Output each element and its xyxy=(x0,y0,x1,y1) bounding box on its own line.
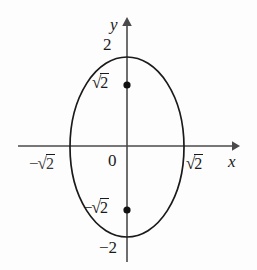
x-vertex-right-radicand: 2 xyxy=(194,154,203,172)
ellipse-figure: y x 2 −2 0 √2 − √2 √2 − √2 xyxy=(0,0,257,270)
focus-lower-radicand: 2 xyxy=(100,198,109,216)
focus-point-lower xyxy=(123,206,130,213)
focus-upper-label: √2 xyxy=(92,74,109,91)
y-axis-label: y xyxy=(110,16,118,33)
minus-sign-focus-lower: − xyxy=(83,198,92,217)
figure-canvas xyxy=(0,0,257,270)
x-axis-arrowhead xyxy=(232,141,240,151)
x-vertex-left-radicand: 2 xyxy=(46,154,55,172)
focus-point-upper xyxy=(123,81,130,88)
y-tick-label-2: 2 xyxy=(103,36,112,53)
focus-lower-label: − √2 xyxy=(83,199,109,216)
x-vertex-left-label: − √2 xyxy=(29,155,55,172)
origin-label: 0 xyxy=(108,152,117,169)
minus-sign-x-vertex-left: − xyxy=(29,154,38,173)
x-axis-label: x xyxy=(228,153,236,170)
x-vertex-right-label: √2 xyxy=(186,155,203,172)
y-axis-arrowhead xyxy=(122,17,132,26)
y-tick-label-minus-2: −2 xyxy=(99,239,117,256)
focus-upper-radicand: 2 xyxy=(100,73,109,91)
